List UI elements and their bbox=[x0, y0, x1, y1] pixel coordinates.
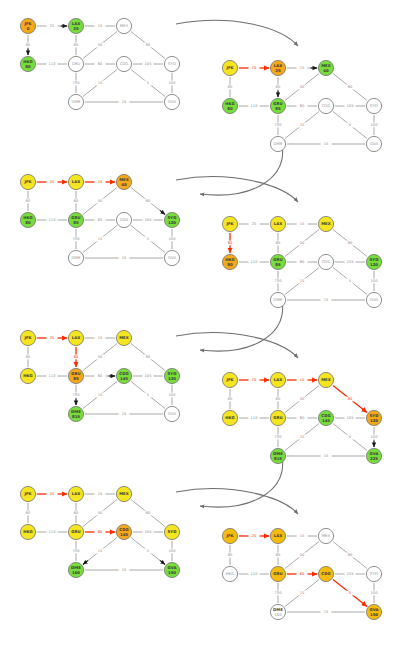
node-hkg-panel-3[interactable]: HKG80 bbox=[20, 212, 35, 227]
node-jfk-panel-1[interactable]: JFK0 bbox=[20, 18, 35, 33]
node-jfk-panel-7[interactable]: JFK bbox=[20, 486, 35, 501]
node-gva-panel-1[interactable]: GVA bbox=[164, 94, 179, 109]
node-hkg-panel-7[interactable]: HKG bbox=[20, 524, 35, 539]
node-mex-panel-7[interactable]: MEX bbox=[116, 486, 131, 501]
node-syd-panel-5[interactable]: SYD120 bbox=[164, 368, 179, 383]
edge-JFK-HKG: 80 bbox=[23, 35, 34, 55]
edge-weight-CDG-SYD: 105 bbox=[347, 260, 354, 264]
node-gva-panel-4[interactable]: GVA bbox=[366, 292, 381, 307]
edge-weight-MEX-SYD: 80 bbox=[348, 85, 353, 89]
node-mex-panel-4[interactable]: MEX bbox=[318, 216, 333, 231]
node-gva-panel-2[interactable]: GVA bbox=[366, 136, 381, 151]
node-lax-panel-8[interactable]: LAX bbox=[270, 528, 285, 543]
node-hkg-panel-4[interactable]: HKG80 bbox=[222, 254, 237, 269]
node-lax-panel-2[interactable]: LAX25 bbox=[270, 60, 285, 75]
edge-CDG-SYD: 105 bbox=[133, 530, 163, 535]
edge-GRU-DME: 730 bbox=[71, 541, 82, 561]
node-dme-panel-7[interactable]: DME160 bbox=[68, 562, 83, 577]
panel-layer: 2515806050801106010573015510015JFK0LAX25… bbox=[20, 18, 381, 619]
node-lax-panel-3[interactable]: LAX bbox=[68, 174, 83, 189]
node-gva-panel-5[interactable]: GVA bbox=[164, 406, 179, 421]
edge-weight-HKG-GRU: 110 bbox=[49, 530, 57, 534]
edge-weight-MEX-SYD: 80 bbox=[348, 241, 353, 245]
node-cdg-panel-7[interactable]: CDG145 bbox=[116, 524, 131, 539]
node-code-syd: SYD bbox=[370, 571, 378, 576]
node-gru-panel-3[interactable]: GRU85 bbox=[68, 212, 83, 227]
node-hkg-panel-2[interactable]: HKG80 bbox=[222, 98, 237, 113]
node-mex-panel-5[interactable]: MEX bbox=[116, 330, 131, 345]
node-cdg-panel-2[interactable]: CDG bbox=[318, 98, 333, 113]
node-lax-panel-1[interactable]: LAX25 bbox=[68, 18, 83, 33]
edge-CDG-DME: 15 bbox=[83, 226, 117, 253]
flow-arrow-step-2-to-3 bbox=[200, 144, 283, 195]
edge-weight-CDG-GVA: 5 bbox=[349, 591, 351, 595]
node-code-mex: MEX bbox=[321, 377, 331, 382]
node-cdg-panel-5[interactable]: CDG145 bbox=[116, 368, 131, 383]
node-jfk-panel-8[interactable]: JFK bbox=[222, 528, 237, 543]
node-dme-panel-5[interactable]: DME815 bbox=[68, 406, 83, 421]
node-lax-panel-6[interactable]: LAX bbox=[270, 372, 285, 387]
node-gva-panel-7[interactable]: GVA150 bbox=[164, 562, 179, 577]
node-jfk-panel-6[interactable]: JFK bbox=[222, 372, 237, 387]
node-syd-panel-3[interactable]: SYD120 bbox=[164, 212, 179, 227]
node-dme-panel-6[interactable]: DME815 bbox=[270, 448, 285, 463]
node-hkg-panel-8[interactable]: HKG bbox=[222, 566, 237, 581]
node-jfk-panel-4[interactable]: JFK bbox=[222, 216, 237, 231]
node-gru-panel-4[interactable]: GRU85 bbox=[270, 254, 285, 269]
edge-JFK-LAX: 25 bbox=[239, 534, 269, 539]
node-syd-panel-2[interactable]: SYD bbox=[366, 98, 381, 113]
flow-arrow-step-5-to-6 bbox=[176, 333, 298, 358]
node-cdg-panel-4[interactable]: CDG bbox=[318, 254, 333, 269]
node-jfk-panel-3[interactable]: JFK bbox=[20, 174, 35, 189]
edge-HKG-GRU: 110 bbox=[37, 218, 67, 223]
node-lax-panel-7[interactable]: LAX bbox=[68, 486, 83, 501]
node-syd-panel-4[interactable]: SYD120 bbox=[366, 254, 381, 269]
node-dme-panel-3[interactable]: DME bbox=[68, 250, 83, 265]
node-cdg-panel-3[interactable]: CDG bbox=[116, 212, 131, 227]
node-gva-panel-3[interactable]: GVA bbox=[164, 250, 179, 265]
node-gru-panel-5[interactable]: GRU85 bbox=[68, 368, 83, 383]
node-dme-panel-2[interactable]: DME bbox=[270, 136, 285, 151]
node-cdg-panel-1[interactable]: CDG bbox=[116, 56, 131, 71]
node-gru-panel-2[interactable]: GRU85 bbox=[270, 98, 285, 113]
node-code-gru: GRU bbox=[72, 61, 81, 66]
node-dme-panel-1[interactable]: DME bbox=[68, 94, 83, 109]
node-gru-panel-6[interactable]: GRU bbox=[270, 410, 285, 425]
node-cdg-panel-8[interactable]: CDG bbox=[318, 566, 333, 581]
node-code-jfk: JFK bbox=[225, 533, 234, 538]
node-gru-panel-1[interactable]: GRU bbox=[68, 56, 83, 71]
node-mex-panel-2[interactable]: MEX40 bbox=[318, 60, 333, 75]
node-gva-panel-6[interactable]: GVA225 bbox=[366, 448, 381, 463]
node-gva-panel-8[interactable]: GVA150 bbox=[366, 604, 381, 619]
node-jfk-panel-2[interactable]: JFK bbox=[222, 60, 237, 75]
node-hkg-panel-1[interactable]: HKG80 bbox=[20, 56, 35, 71]
node-code-dme: DME bbox=[72, 99, 81, 104]
edge-DME-GVA: 15 bbox=[287, 454, 365, 459]
edge-weight-LAX-MEX: 15 bbox=[98, 492, 103, 496]
node-syd-panel-8[interactable]: SYD bbox=[366, 566, 381, 581]
node-mex-panel-6[interactable]: MEX bbox=[318, 372, 333, 387]
edge-DME-GVA: 15 bbox=[85, 412, 163, 417]
edge-JFK-HKG: 80 bbox=[225, 545, 236, 565]
node-gru-panel-7[interactable]: GRU bbox=[68, 524, 83, 539]
node-cdg-panel-6[interactable]: CDG145 bbox=[318, 410, 333, 425]
node-lax-panel-5[interactable]: LAX bbox=[68, 330, 83, 345]
node-mex-panel-8[interactable]: MEX bbox=[318, 528, 333, 543]
node-code-cdg: CDG bbox=[120, 61, 129, 66]
node-gru-panel-8[interactable]: GRU bbox=[270, 566, 285, 581]
node-mex-panel-3[interactable]: MEX40 bbox=[116, 174, 131, 189]
node-lax-panel-4[interactable]: LAX bbox=[270, 216, 285, 231]
node-code-gva: GVA bbox=[168, 411, 176, 416]
node-syd-panel-6[interactable]: SYD120 bbox=[366, 410, 381, 425]
edge-weight-CDG-GVA: 5 bbox=[349, 435, 351, 439]
node-syd-panel-7[interactable]: SYD bbox=[164, 524, 179, 539]
edge-HKG-GRU: 110 bbox=[239, 416, 269, 421]
node-dme-panel-8[interactable]: DME160 bbox=[270, 604, 285, 619]
node-jfk-panel-5[interactable]: JFK bbox=[20, 330, 35, 345]
node-mex-panel-1[interactable]: MEX bbox=[116, 18, 131, 33]
edge-weight-JFK-HKG: 80 bbox=[228, 85, 233, 89]
node-dme-panel-4[interactable]: DME bbox=[270, 292, 285, 307]
node-syd-panel-1[interactable]: SYD bbox=[164, 56, 179, 71]
node-hkg-panel-5[interactable]: HKG bbox=[20, 368, 35, 383]
node-hkg-panel-6[interactable]: HKG bbox=[222, 410, 237, 425]
